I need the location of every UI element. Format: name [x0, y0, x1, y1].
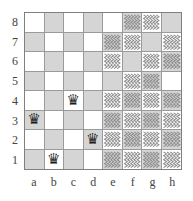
hatch-overlay-e4 — [103, 91, 122, 110]
file-label-h: h — [162, 172, 182, 192]
hatch-overlay-e2 — [103, 130, 122, 149]
queen-piece-b1[interactable]: ♛ — [45, 150, 64, 170]
hatch-overlay-h7 — [162, 33, 182, 52]
board-square-f2[interactable] — [123, 130, 143, 150]
board-square-e7[interactable] — [103, 33, 123, 53]
board-square-h1[interactable] — [162, 150, 182, 170]
board-square-a6[interactable] — [25, 52, 45, 72]
hatch-overlay-e3 — [103, 111, 122, 130]
board-square-a8[interactable] — [25, 13, 45, 33]
board-square-c2[interactable] — [64, 130, 84, 150]
board-square-h4[interactable] — [162, 91, 182, 111]
board-square-d5[interactable] — [84, 72, 104, 92]
board-square-d6[interactable] — [84, 52, 104, 72]
board-square-b4[interactable] — [45, 91, 65, 111]
board-square-e2[interactable] — [103, 130, 123, 150]
board-square-g7[interactable] — [142, 33, 162, 53]
hatch-overlay-g5 — [142, 72, 161, 91]
rank-label-6: 6 — [0, 52, 22, 72]
rank-label-5: 5 — [0, 71, 22, 91]
board-square-a1[interactable] — [25, 150, 45, 170]
rank-label-7: 7 — [0, 32, 22, 52]
queen-piece-d2[interactable]: ♛ — [84, 130, 103, 149]
board-square-e3[interactable] — [103, 111, 123, 131]
board-square-g5[interactable] — [142, 72, 162, 92]
board-square-a2[interactable] — [25, 130, 45, 150]
board-square-f8[interactable] — [123, 13, 143, 33]
board-square-f7[interactable] — [123, 33, 143, 53]
board-square-f4[interactable] — [123, 91, 143, 111]
rank-label-1: 1 — [0, 150, 22, 170]
board-square-b1[interactable]: ♛ — [45, 150, 65, 170]
file-label-a: a — [24, 172, 44, 192]
board-square-d1[interactable] — [84, 150, 104, 170]
board-square-d4[interactable] — [84, 91, 104, 111]
rank-label-2: 2 — [0, 131, 22, 151]
board-square-c7[interactable] — [64, 33, 84, 53]
hatch-overlay-f4 — [123, 91, 142, 110]
hatch-overlay-f2 — [123, 130, 142, 149]
board-square-b5[interactable] — [45, 72, 65, 92]
rank-label-4: 4 — [0, 91, 22, 111]
chess-diagram: 87654321 ♛♛♛♛ abcdefgh — [0, 0, 193, 201]
board-square-a5[interactable] — [25, 72, 45, 92]
board-square-e4[interactable] — [103, 91, 123, 111]
board-square-g8[interactable] — [142, 13, 162, 33]
queen-piece-a3[interactable]: ♛ — [25, 111, 44, 130]
hatch-overlay-h2 — [162, 130, 182, 149]
board-square-h6[interactable] — [162, 52, 182, 72]
board-square-a3[interactable]: ♛ — [25, 111, 45, 131]
hatch-overlay-g8 — [142, 13, 161, 32]
board-square-c3[interactable] — [64, 111, 84, 131]
queen-piece-c4[interactable]: ♛ — [64, 91, 83, 110]
board-square-g2[interactable] — [142, 130, 162, 150]
hatch-overlay-g3 — [142, 111, 161, 130]
board-square-f6[interactable] — [123, 52, 143, 72]
board-square-e8[interactable] — [103, 13, 123, 33]
board-square-h7[interactable] — [162, 33, 182, 53]
board-square-c1[interactable] — [64, 150, 84, 170]
chess-board: ♛♛♛♛ — [24, 12, 182, 170]
board-square-g1[interactable] — [142, 150, 162, 170]
file-label-c: c — [64, 172, 84, 192]
board-square-h5[interactable] — [162, 72, 182, 92]
board-square-b3[interactable] — [45, 111, 65, 131]
file-label-row: abcdefgh — [24, 172, 182, 192]
board-square-a7[interactable] — [25, 33, 45, 53]
board-square-f3[interactable] — [123, 111, 143, 131]
file-label-e: e — [103, 172, 123, 192]
board-square-f5[interactable] — [123, 72, 143, 92]
hatch-overlay-e7 — [103, 33, 122, 52]
board-square-f1[interactable] — [123, 150, 143, 170]
file-label-g: g — [143, 172, 163, 192]
board-square-d3[interactable] — [84, 111, 104, 131]
board-square-e6[interactable] — [103, 52, 123, 72]
board-square-g6[interactable] — [142, 52, 162, 72]
hatch-overlay-e1 — [103, 150, 122, 170]
board-square-g4[interactable] — [142, 91, 162, 111]
board-square-d8[interactable] — [84, 13, 104, 33]
hatch-overlay-f5 — [123, 72, 142, 91]
rank-label-3: 3 — [0, 111, 22, 131]
board-square-h8[interactable] — [162, 13, 182, 33]
board-square-d7[interactable] — [84, 33, 104, 53]
board-square-b2[interactable] — [45, 130, 65, 150]
board-square-h3[interactable] — [162, 111, 182, 131]
board-square-a4[interactable] — [25, 91, 45, 111]
board-square-c8[interactable] — [64, 13, 84, 33]
board-square-c5[interactable] — [64, 72, 84, 92]
hatch-overlay-f8 — [123, 13, 142, 32]
rank-label-column: 87654321 — [0, 12, 22, 170]
hatch-overlay-h4 — [162, 91, 182, 110]
board-square-b8[interactable] — [45, 13, 65, 33]
board-square-c4[interactable]: ♛ — [64, 91, 84, 111]
board-square-b7[interactable] — [45, 33, 65, 53]
board-square-h2[interactable] — [162, 130, 182, 150]
board-square-d2[interactable]: ♛ — [84, 130, 104, 150]
board-square-e1[interactable] — [103, 150, 123, 170]
board-square-b6[interactable] — [45, 52, 65, 72]
board-square-g3[interactable] — [142, 111, 162, 131]
rank-label-8: 8 — [0, 12, 22, 32]
board-square-e5[interactable] — [103, 72, 123, 92]
board-square-c6[interactable] — [64, 52, 84, 72]
